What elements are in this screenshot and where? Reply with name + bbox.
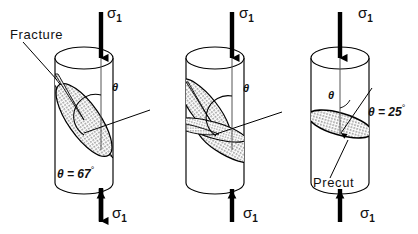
sigma-subscript: 1 (116, 13, 122, 24)
theta-67-text: θ = 67 (57, 167, 91, 181)
specimen-middle (171, 12, 282, 222)
sigma-bottom-right: σ1 (360, 205, 375, 224)
sigma-subscript: 1 (369, 213, 375, 224)
theta-value-right: θ = 25° (368, 104, 405, 118)
load-arrow-bottom-middle (228, 189, 237, 222)
sigma-top-left: σ1 (107, 5, 122, 24)
sigma-symbol: σ (239, 4, 248, 21)
sigma-bottom-middle: σ1 (243, 205, 258, 224)
theta-symbol-right: θ (328, 90, 334, 101)
sigma-subscript: 1 (367, 13, 373, 24)
sigma-symbol: σ (358, 4, 367, 21)
sigma-symbol: σ (243, 204, 252, 221)
precut-label: Precut (313, 176, 354, 189)
sigma-bottom-left: σ1 (112, 205, 127, 224)
sigma-symbol: σ (360, 204, 369, 221)
theta-25-text: θ = 25 (368, 105, 402, 119)
degree-symbol-left: ° (91, 165, 95, 175)
fracture-label: Fracture (10, 28, 63, 41)
specimen-right (305, 12, 375, 222)
sigma-top-middle: σ1 (239, 5, 254, 24)
degree-symbol-right: ° (402, 103, 406, 113)
sigma-symbol: σ (107, 4, 116, 21)
specimen-left (23, 12, 150, 222)
theta-symbol-middle: θ (243, 83, 249, 94)
sigma-symbol: σ (112, 204, 121, 221)
sigma-top-right: σ1 (358, 5, 373, 24)
theta-value-left: θ = 67° (57, 166, 94, 180)
sigma-subscript: 1 (248, 13, 254, 24)
sigma-subscript: 1 (121, 213, 127, 224)
fracture-leader-line (23, 42, 57, 80)
sigma-subscript: 1 (252, 213, 258, 224)
theta-symbol-left: θ (112, 82, 118, 93)
